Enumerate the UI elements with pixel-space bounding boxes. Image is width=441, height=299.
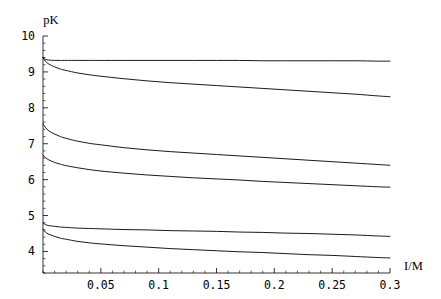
plot-canvas: 45678910 0.050.10.150.20.250.3 pK I/M	[0, 0, 441, 299]
y-tick-label: 9	[28, 65, 35, 79]
x-tick-label: 0.3	[380, 278, 401, 292]
y-tick-label: 10	[21, 29, 35, 43]
x-tick-label: 0.2	[264, 278, 285, 292]
plot-background	[0, 0, 441, 299]
x-tick-label: 0.1	[148, 278, 169, 292]
y-tick-label: 6	[28, 173, 35, 187]
y-tick-label: 7	[28, 137, 35, 151]
x-tick-label: 0.15	[203, 278, 231, 292]
x-tick-label: 0.05	[87, 278, 115, 292]
y-tick-label: 5	[28, 209, 35, 223]
plot-figure: 45678910 0.050.10.150.20.250.3 pK I/M	[0, 0, 441, 299]
y-tick-label: 8	[28, 101, 35, 115]
x-axis-title: I/M	[404, 259, 423, 273]
y-tick-label: 4	[28, 244, 35, 258]
y-axis-title: pK	[43, 13, 58, 27]
x-tick-label: 0.25	[318, 278, 346, 292]
